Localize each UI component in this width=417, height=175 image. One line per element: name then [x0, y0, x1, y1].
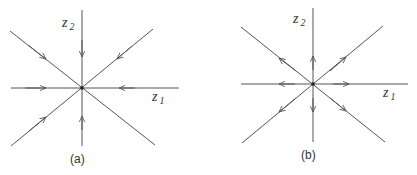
arrow-icon	[117, 46, 132, 59]
arrow-icon	[279, 58, 296, 71]
label-z2-b: z2	[292, 11, 305, 28]
label-z1-b: z1	[382, 85, 395, 102]
phase-portrait-figure: z2 z1 (a) z2 z1 (b)	[0, 0, 417, 175]
origin-point-b	[311, 82, 315, 86]
caption-b: (b)	[301, 148, 316, 162]
label-z2-a: z2	[61, 15, 74, 32]
origin-point-a	[80, 86, 84, 90]
label-z1-a: z1	[151, 89, 164, 106]
caption-a: (a)	[70, 152, 85, 166]
arrow-icon	[279, 98, 296, 112]
arrow-icon	[330, 57, 346, 71]
arrow-icon	[330, 98, 346, 111]
panel-a-stable-node	[10, 10, 179, 146]
arrow-icon	[29, 117, 46, 131]
arrow-icon	[28, 45, 46, 59]
panel-b-unstable-node	[241, 8, 408, 143]
